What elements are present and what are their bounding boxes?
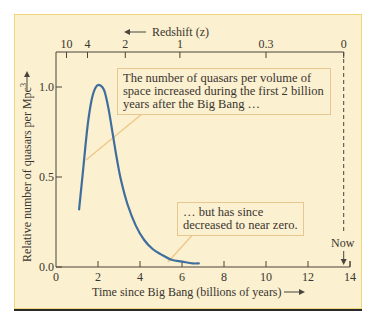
x-tick-label: 12 xyxy=(302,270,314,284)
y-tick-label: 0.0 xyxy=(39,260,54,274)
y-tick-label: 0.5 xyxy=(39,170,54,184)
quasar-chart: 024681012140.00.51.0104210.30 Redshift (… xyxy=(0,0,376,321)
callout-increase: The number of quasars per volume of spac… xyxy=(117,68,331,115)
redshift-tick-label: 0 xyxy=(341,37,347,51)
x-tick-label: 8 xyxy=(221,270,227,284)
x-tick-label: 10 xyxy=(260,270,272,284)
now-label: Now xyxy=(331,236,355,250)
now-arrow-icon xyxy=(341,259,347,265)
redshift-tick-label: 0.3 xyxy=(259,37,274,51)
right-arrow-icon xyxy=(299,289,305,295)
redshift-axis-title: Redshift (z) xyxy=(152,25,209,39)
redshift-tick-label: 4 xyxy=(85,37,91,51)
redshift-tick-label: 1 xyxy=(177,37,183,51)
x-tick-label: 6 xyxy=(179,270,185,284)
y-axis-title: Relative number of quasars per Mpc3 xyxy=(19,83,34,262)
x-tick-label: 2 xyxy=(95,270,101,284)
x-tick-label: 14 xyxy=(344,270,356,284)
redshift-tick-label: 2 xyxy=(122,37,128,51)
axis-labels: Redshift (z) Time since Big Bang (billio… xyxy=(19,25,355,299)
redshift-tick-label: 10 xyxy=(61,37,73,51)
y-tick-label: 1.0 xyxy=(39,80,54,94)
x-axis-title: Time since Big Bang (billions of years) xyxy=(92,285,282,299)
callout-decrease: … but has since decreased to near zero. xyxy=(177,202,304,236)
up-arrow-icon xyxy=(24,71,30,77)
x-tick-label: 4 xyxy=(137,270,143,284)
left-arrow-icon xyxy=(124,29,130,35)
